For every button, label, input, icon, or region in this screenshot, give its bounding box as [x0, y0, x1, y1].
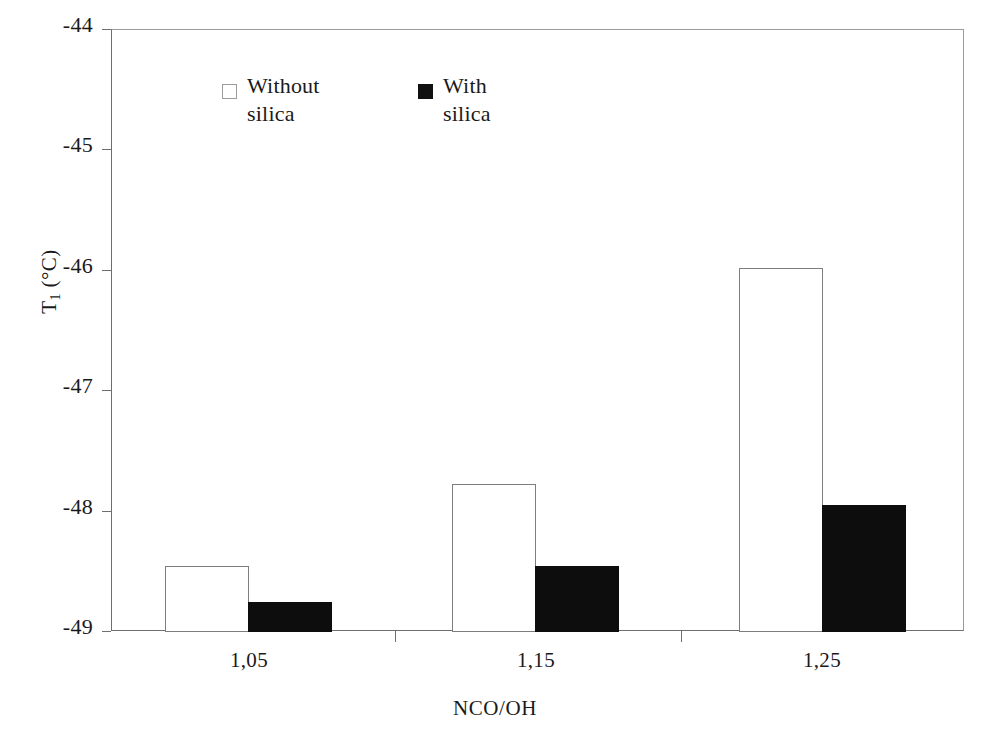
x-tick-label-0: 1,05	[189, 650, 309, 671]
y-tick-label: -45	[63, 134, 93, 156]
y-tick-label: -46	[63, 255, 93, 277]
y-tick-mark	[102, 29, 111, 30]
bar-with-silica-3	[822, 505, 906, 632]
x-tick-label-1: 1,15	[476, 650, 596, 671]
y-tick-mark	[102, 270, 111, 271]
y-tick-label: -47	[63, 375, 93, 397]
y-axis-title-base: T	[37, 300, 61, 313]
bar-without-silica-3	[739, 268, 823, 632]
x-tick-mark-0	[395, 631, 396, 642]
y-tick-mark	[102, 149, 111, 150]
x-tick-mark-1	[681, 631, 682, 642]
y-axis-title-unit: (°C)	[37, 249, 61, 293]
bar-with-silica-2	[535, 566, 619, 632]
y-tick-label: -49	[63, 616, 93, 638]
y-axis-title-subscript: 1	[48, 293, 63, 300]
y-tick-mark	[102, 511, 111, 512]
x-tick-label-2: 1,25	[762, 650, 882, 671]
y-axis-title: T1 (°C)	[39, 212, 62, 352]
bar-without-silica-2	[452, 484, 536, 632]
y-tick-mark	[102, 390, 111, 391]
x-axis-title: NCO/OH	[0, 698, 990, 719]
bar-without-silica-1	[165, 566, 249, 632]
y-tick-label: -48	[63, 496, 93, 518]
chart-figure: T1 (°C) -44 -45 -46 -47 -48 -49 1,05 1,1…	[0, 0, 990, 746]
bar-with-silica-1	[248, 602, 332, 632]
y-tick-mark	[102, 631, 111, 632]
y-tick-label: -44	[63, 14, 93, 36]
